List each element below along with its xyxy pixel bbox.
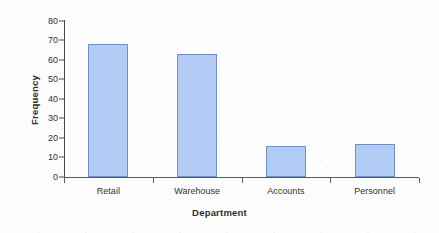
x-axis-tick-mark: [419, 178, 420, 183]
x-axis-tick-mark: [153, 178, 154, 183]
x-axis-category-label: Personnel: [354, 186, 395, 196]
x-axis-category-label: Accounts: [267, 186, 304, 196]
y-axis-line: [64, 20, 65, 178]
bar-personnel: [355, 144, 395, 177]
x-axis-category-label: Warehouse: [174, 186, 220, 196]
bar-warehouse: [177, 54, 217, 177]
bar-retail: [88, 44, 128, 177]
scan-noise-texture: [0, 0, 439, 233]
x-axis-tick-mark: [242, 178, 243, 183]
bar-chart-figure: Frequency 01020304050607080 RetailWareho…: [0, 0, 439, 233]
x-axis-title: Department: [0, 207, 439, 218]
x-axis-category-label: Retail: [97, 186, 120, 196]
y-axis-tick-label: 50: [36, 74, 58, 84]
y-axis-tick-label: 30: [36, 113, 58, 123]
y-axis-tick-label: 20: [36, 133, 58, 143]
y-axis-tick-label: 80: [36, 16, 58, 26]
y-axis-tick-label: 70: [36, 35, 58, 45]
x-axis-tick-mark: [330, 178, 331, 183]
y-axis-tick-label: 40: [36, 94, 58, 104]
x-axis-tick-mark: [64, 178, 65, 183]
y-axis-tick-label: 10: [36, 152, 58, 162]
y-axis-tick-label: 60: [36, 55, 58, 65]
bar-accounts: [266, 146, 306, 177]
y-axis-tick-label: 0: [36, 172, 58, 182]
